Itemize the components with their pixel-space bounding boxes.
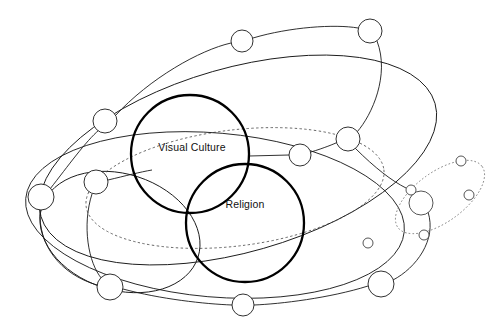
diagram-canvas: Visual CultureReligion (0, 0, 503, 331)
node-bottom-center[interactable] (232, 294, 254, 316)
satellite-dotted-ellipse (383, 146, 497, 248)
node-lower-left[interactable] (97, 274, 123, 300)
node-top-center[interactable] (231, 30, 253, 52)
sat-node-top[interactable] (456, 156, 466, 166)
link-left-mid-to-lower-left (87, 194, 102, 279)
main-circle-label-visual-culture: Visual Culture (158, 141, 225, 153)
main-circle-group (131, 95, 304, 282)
sat-node-far-left[interactable] (363, 238, 373, 248)
link-top-right-to-right-upper (357, 41, 381, 132)
concept-network-diagram: Visual CultureReligion (0, 0, 503, 331)
node-top-right[interactable] (358, 19, 382, 43)
link-top-center-to-top-right (253, 26, 358, 38)
node-right-upper[interactable] (336, 127, 360, 151)
node-bottom-right[interactable] (368, 271, 394, 297)
link-right-upper-to-sat (355, 148, 406, 188)
link-vc-to-mid-right (249, 155, 289, 156)
sat-node-right[interactable] (464, 190, 474, 200)
link-bottom-right-to-bottom-center (254, 286, 368, 305)
node-upper-left[interactable] (93, 109, 117, 133)
node-left-mid[interactable] (84, 170, 108, 194)
node-mid-right[interactable] (289, 144, 311, 166)
main-circle-label-religion: Religion (225, 198, 264, 210)
link-sat-hub-to-bottom-right (393, 212, 430, 280)
node-far-left[interactable] (28, 184, 54, 210)
link-mid-right-to-right-upper (311, 142, 338, 152)
satellite-node-group (363, 156, 474, 248)
main-circle-religion[interactable] (186, 164, 304, 282)
sat-node-bottom[interactable] (419, 230, 429, 240)
sat-node-left[interactable] (406, 185, 416, 195)
